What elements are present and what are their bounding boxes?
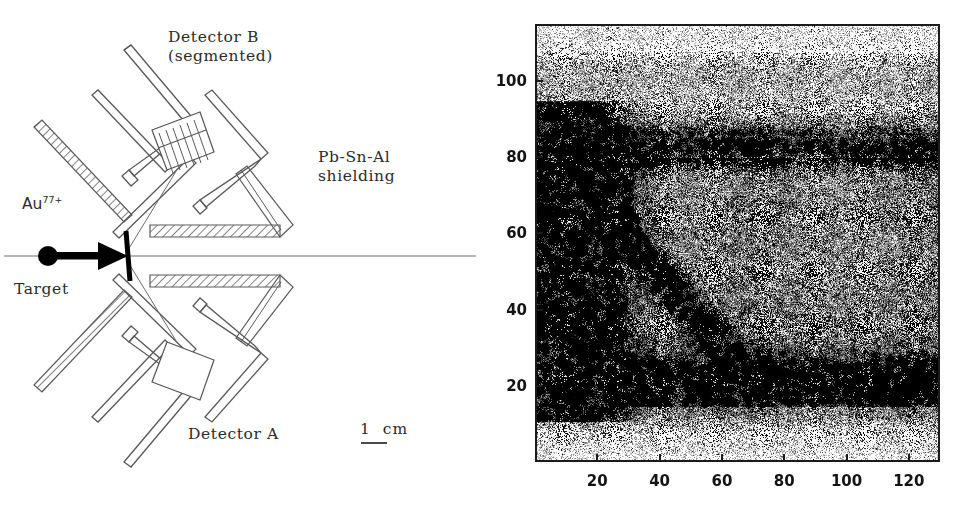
x-axis-tick-label: 40 <box>649 472 670 490</box>
figure-root: Detector B (segmented) Pb-Sn-Al shieldin… <box>0 0 958 509</box>
y-axis-tick-mark <box>535 385 543 387</box>
y-axis-tick-mark <box>535 232 543 234</box>
beam-species-symbol: Au <box>22 195 42 213</box>
sightline-detector-a <box>128 262 178 344</box>
shield-plate-lower-left <box>34 290 132 392</box>
target-label: Target <box>14 280 69 299</box>
plot-frame <box>535 24 940 462</box>
y-axis-tick-mark <box>535 80 543 82</box>
y-axis-tick-label: 40 <box>481 301 527 319</box>
y-axis-tick-label: 20 <box>481 377 527 395</box>
detector-a-crystal <box>152 342 214 400</box>
shield-plate-lower-right <box>150 275 293 346</box>
y-axis-tick-label: 80 <box>481 148 527 166</box>
scale-bar-rule <box>361 442 387 444</box>
beam-species-label: Au77+ <box>22 194 63 215</box>
y-axis-tick-label: 100 <box>481 72 527 90</box>
x-axis-tick-label: 80 <box>774 472 795 490</box>
beam-charge-superscript: 77+ <box>42 194 62 205</box>
x-axis-tick-mark <box>846 454 848 462</box>
detector-a-label: Detector A <box>188 425 279 444</box>
coincidence-density-plot: 2040608010020406080100120 <box>480 0 958 509</box>
beam-particle-circle <box>38 246 58 266</box>
y-axis-tick-mark <box>535 156 543 158</box>
beam-arrow-head <box>98 242 128 270</box>
detector-b-crystal-segmented <box>152 112 214 173</box>
x-axis-tick-label: 120 <box>893 472 924 490</box>
density-scatter-canvas <box>537 26 938 460</box>
x-axis-tick-mark <box>596 454 598 462</box>
y-axis-tick-label: 60 <box>481 224 527 242</box>
target-foil <box>126 231 130 281</box>
x-axis-tick-mark <box>721 454 723 462</box>
scale-bar: 1 cm <box>360 420 422 444</box>
x-axis-tick-mark <box>908 454 910 462</box>
detector-setup-schematic: Detector B (segmented) Pb-Sn-Al shieldin… <box>0 0 480 509</box>
sightline-detector-b <box>128 168 178 250</box>
beam-arrow-shaft <box>56 252 102 260</box>
scale-bar-label: 1 cm <box>360 420 422 438</box>
x-axis-tick-label: 60 <box>711 472 732 490</box>
shielding-label: Pb-Sn-Al shielding <box>318 148 395 187</box>
shield-plate-upper-right <box>150 166 293 237</box>
x-axis-tick-mark <box>783 454 785 462</box>
y-axis-tick-mark <box>535 309 543 311</box>
x-axis-tick-label: 100 <box>831 472 862 490</box>
x-axis-tick-label: 20 <box>587 472 608 490</box>
beam-particle-and-arrow <box>38 242 128 270</box>
x-axis-tick-mark <box>659 454 661 462</box>
detector-b-label: Detector B (segmented) <box>168 28 273 67</box>
